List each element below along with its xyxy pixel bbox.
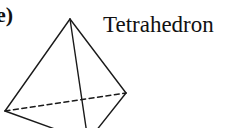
tetrahedron-drawing [0,0,247,128]
edge-apex-right [70,19,126,93]
edge-apex-front [70,19,88,128]
edge-apex-left [5,19,70,111]
edge-left-front [5,111,88,128]
hidden-edge-left-right [5,93,126,111]
